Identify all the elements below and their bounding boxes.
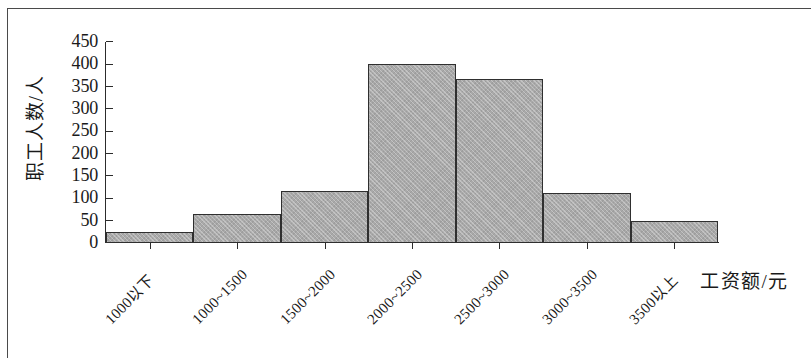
x-category-label: 3500以上 bbox=[626, 272, 681, 327]
y-tick-mark bbox=[106, 41, 113, 42]
x-tick-mark bbox=[499, 243, 500, 249]
y-tick-label-text: 50 bbox=[52, 211, 98, 229]
x-category-label: 1000以下 bbox=[102, 272, 157, 327]
y-tick-label: 400 bbox=[52, 54, 98, 72]
histogram-bar bbox=[106, 232, 193, 243]
x-category-label: 3000~3500 bbox=[539, 266, 600, 327]
y-tick-label: 50 bbox=[52, 211, 98, 229]
x-tick-mark bbox=[412, 243, 413, 249]
x-category-label: 1500~2000 bbox=[277, 266, 338, 327]
y-tick-mark bbox=[106, 220, 113, 221]
y-tick-mark bbox=[106, 86, 113, 87]
x-tick-mark bbox=[674, 243, 675, 249]
x-category-label: 1000~1500 bbox=[189, 266, 250, 327]
histogram-bar bbox=[543, 193, 630, 243]
x-category-label: 2000~2500 bbox=[364, 266, 425, 327]
y-tick-label: 450 bbox=[52, 32, 98, 50]
y-tick-label: 100 bbox=[52, 188, 98, 206]
x-tick-mark bbox=[150, 243, 151, 249]
y-tick-mark bbox=[106, 131, 113, 132]
histogram-bar bbox=[368, 64, 455, 243]
histogram-bar bbox=[631, 221, 718, 243]
y-tick-label-text: 400 bbox=[52, 54, 98, 72]
x-tick-mark bbox=[587, 243, 588, 249]
y-axis-line bbox=[105, 42, 106, 243]
y-tick-mark bbox=[106, 198, 113, 199]
x-category-label: 2500~3000 bbox=[451, 266, 512, 327]
y-tick-label-text: 300 bbox=[52, 99, 98, 117]
y-tick-mark bbox=[106, 153, 113, 154]
y-tick-label: 250 bbox=[52, 121, 98, 139]
x-tick-mark bbox=[237, 243, 238, 249]
chart-page: 职工人数/人 工资额/元 450400350300250200150100500… bbox=[0, 0, 811, 361]
y-tick-mark bbox=[106, 108, 113, 109]
y-tick-label-text: 200 bbox=[52, 144, 98, 162]
y-tick-label: 300 bbox=[52, 99, 98, 117]
histogram-plot-area: 职工人数/人 工资额/元 450400350300250200150100500… bbox=[0, 0, 811, 361]
histogram-bar bbox=[281, 191, 368, 243]
y-axis-title: 职工人数/人 bbox=[26, 68, 46, 188]
y-tick-label-text: 350 bbox=[52, 77, 98, 95]
x-axis-title: 工资额/元 bbox=[700, 272, 789, 292]
y-tick-mark bbox=[106, 64, 113, 65]
y-tick-label-text: 250 bbox=[52, 121, 98, 139]
y-tick-label: 350 bbox=[52, 77, 98, 95]
y-tick-mark bbox=[106, 175, 113, 176]
y-tick-label-text: 0 bbox=[52, 233, 98, 251]
y-tick-label: 0 bbox=[52, 233, 98, 251]
histogram-bar bbox=[193, 214, 280, 243]
y-tick-label-text: 450 bbox=[52, 32, 98, 50]
y-tick-label: 150 bbox=[52, 166, 98, 184]
histogram-bar bbox=[456, 79, 543, 243]
y-tick-label-text: 100 bbox=[52, 188, 98, 206]
x-tick-mark bbox=[325, 243, 326, 249]
y-tick-label-text: 150 bbox=[52, 166, 98, 184]
y-tick-label: 200 bbox=[52, 144, 98, 162]
